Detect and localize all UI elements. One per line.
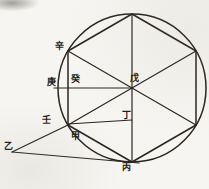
point-label-wu: 戊 [129, 72, 139, 83]
book-page: 乙辛庚癸壬甲戊丁丙 [0, 0, 209, 189]
geometry-figure: 乙辛庚癸壬甲戊丁丙 [0, 0, 209, 189]
point-label-ding: 丁 [122, 110, 131, 120]
point-label-xin: 辛 [55, 40, 64, 51]
point-labels: 乙辛庚癸壬甲戊丁丙 [4, 40, 139, 172]
point-label-ren: 壬 [42, 114, 51, 125]
point-label-bing: 丙 [122, 162, 131, 172]
point-label-yi: 乙 [4, 141, 13, 151]
point-label-geng: 庚 [47, 76, 56, 87]
base-line [12, 152, 139, 163]
lower-horizontal-segment [68, 120, 132, 124]
extension-to-external-point [12, 125, 68, 152]
point-label-jia: 甲 [71, 131, 80, 141]
point-label-gui: 癸 [70, 73, 81, 84]
